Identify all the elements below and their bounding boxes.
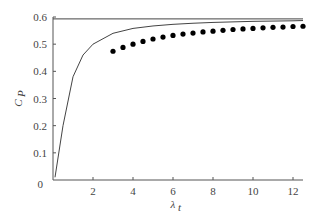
x-axis-label-sub: t (178, 201, 182, 213)
data-point (120, 45, 125, 50)
x-tick-label: 2 (90, 185, 96, 197)
x-tick-label: 8 (210, 185, 216, 197)
y-axis-label-sub: P (15, 90, 27, 98)
x-tick-label: 10 (248, 185, 260, 197)
data-point (150, 36, 155, 41)
data-point (130, 42, 135, 47)
x-tick-label: 12 (288, 185, 299, 197)
series-line (55, 21, 303, 178)
y-axis-label: C (12, 99, 24, 107)
y-tick-label: 0.6 (33, 11, 47, 23)
data-point (190, 30, 195, 35)
y-tick-label: 0.2 (33, 120, 47, 132)
y-tick-label: 0 (38, 178, 44, 190)
data-point (260, 25, 265, 30)
y-tick-label: 0.5 (33, 38, 47, 50)
data-point (270, 25, 275, 30)
data-point (280, 24, 285, 29)
data-point (240, 26, 245, 31)
x-axis-label: λ (170, 198, 176, 210)
data-point (300, 24, 305, 29)
data-point (250, 26, 255, 31)
x-tick-label: 6 (170, 185, 176, 197)
data-point (140, 39, 145, 44)
cp-chart: 00.10.20.30.40.50.624681012λtCP (0, 0, 319, 224)
data-point (220, 28, 225, 33)
data-point (110, 49, 115, 54)
data-point (230, 27, 235, 32)
y-tick-label: 0.1 (33, 147, 47, 159)
x-tick-label: 4 (130, 185, 136, 197)
data-point (160, 35, 165, 40)
y-tick-label: 0.4 (33, 65, 47, 77)
y-tick-label: 0.3 (33, 93, 47, 105)
data-point (200, 29, 205, 34)
data-point (180, 32, 185, 37)
data-point (210, 29, 215, 34)
data-point (170, 33, 175, 38)
data-point (290, 24, 295, 29)
